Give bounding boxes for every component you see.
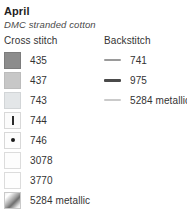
thread-code-label: 437 [30, 75, 47, 86]
backstitch-column: Backstitch 7419755284 metallic [104, 34, 187, 210]
cross-stitch-column: Cross stitch 435437743744746307837705284… [4, 34, 104, 210]
center-dot-icon [11, 138, 15, 142]
thread-color-swatch [4, 172, 21, 189]
legend-columns: Cross stitch 435437743744746307837705284… [4, 34, 183, 210]
page-title: April [4, 5, 183, 18]
cross-stitch-row[interactable]: 743 [4, 90, 104, 110]
backstitch-heading: Backstitch [104, 34, 187, 48]
thread-code-label: 5284 metallic [30, 195, 90, 206]
cross-stitch-row[interactable]: 5284 metallic [4, 190, 104, 210]
thread-color-swatch [4, 52, 21, 69]
backstitch-list: 7419755284 metallic [104, 50, 187, 110]
backstitch-line-sample [104, 79, 121, 82]
backstitch-line-sample [104, 59, 121, 61]
thread-code-label: 3770 [30, 175, 53, 186]
cross-stitch-row[interactable]: 435 [4, 50, 104, 70]
vertical-bar-icon [12, 116, 14, 125]
backstitch-row[interactable]: 975 [104, 70, 187, 90]
thread-code-label: 5284 metallic [130, 95, 187, 106]
thread-code-label: 744 [30, 115, 47, 126]
thread-code-label: 746 [30, 135, 47, 146]
cross-stitch-row[interactable]: 746 [4, 130, 104, 150]
thread-color-swatch [4, 192, 21, 209]
cross-stitch-row[interactable]: 744 [4, 110, 104, 130]
cross-stitch-list: 435437743744746307837705284 metallic [4, 50, 104, 210]
thread-color-swatch [4, 112, 21, 129]
backstitch-row[interactable]: 5284 metallic [104, 90, 187, 110]
thread-code-label: 743 [30, 95, 47, 106]
thread-color-swatch [4, 152, 21, 169]
cross-stitch-row[interactable]: 3770 [4, 170, 104, 190]
pattern-key-panel: April DMC stranded cotton Cross stitch 4… [0, 0, 187, 210]
backstitch-row[interactable]: 741 [104, 50, 187, 70]
cross-stitch-heading: Cross stitch [4, 34, 104, 48]
thread-code-label: 3078 [30, 155, 53, 166]
thread-color-swatch [4, 72, 21, 89]
thread-code-label: 741 [130, 55, 147, 66]
cross-stitch-row[interactable]: 3078 [4, 150, 104, 170]
thread-code-label: 975 [130, 75, 147, 86]
backstitch-line-sample [104, 99, 121, 101]
thread-brand-subtitle: DMC stranded cotton [4, 19, 183, 31]
cross-stitch-row[interactable]: 437 [4, 70, 104, 90]
thread-code-label: 435 [30, 55, 47, 66]
thread-color-swatch [4, 132, 21, 149]
thread-color-swatch [4, 92, 21, 109]
